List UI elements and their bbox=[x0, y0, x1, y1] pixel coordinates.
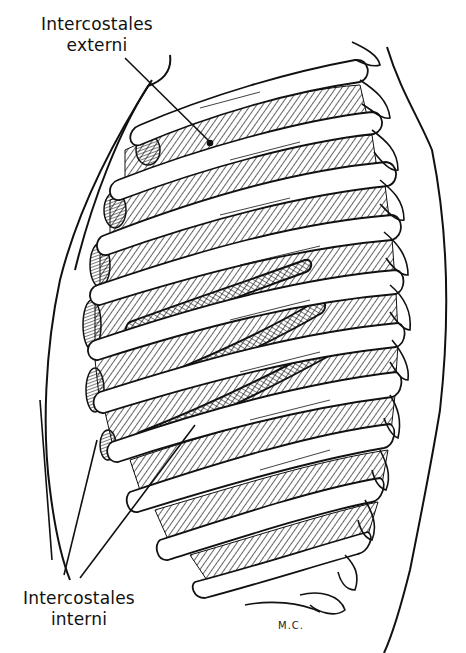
label-externi-line2: externi bbox=[22, 35, 172, 56]
rib-cage-drawing bbox=[0, 0, 466, 653]
label-intercostales-externi: Intercostales externi bbox=[22, 14, 172, 56]
rib-cage-illustration: Intercostales externi Intercostales inte… bbox=[0, 0, 466, 653]
label-externi-line1: Intercostales bbox=[22, 14, 172, 35]
artist-signature: M.C. bbox=[278, 620, 304, 631]
label-intercostales-interni: Intercostales interni bbox=[4, 588, 154, 630]
label-interni-line1: Intercostales bbox=[4, 588, 154, 609]
leader-line-interni-2 bbox=[64, 440, 97, 575]
pointer-dot-externi bbox=[208, 141, 213, 146]
label-interni-line2: interni bbox=[4, 609, 154, 630]
